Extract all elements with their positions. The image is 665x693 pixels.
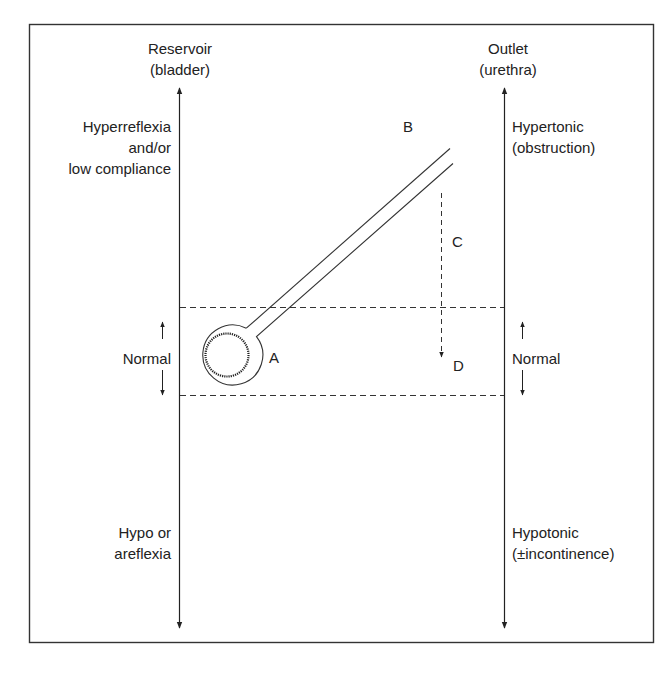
right-top-label: Hypertonic (obstruction): [512, 116, 595, 158]
left-top-label-line3: low compliance: [20, 158, 171, 179]
left-top-label-line1: Hyperreflexia: [20, 116, 171, 137]
right-bottom-label: Hypotonic (±incontinence): [512, 522, 614, 564]
left-bottom-label-line1: Hypo or: [60, 522, 171, 543]
right-axis-title: Outlet (urethra): [458, 38, 558, 80]
right-normal-label: Normal: [512, 348, 560, 369]
left-bottom-label-line2: areflexia: [60, 543, 171, 564]
left-axis-title-line1: Reservoir: [130, 38, 230, 59]
inner-ring: [206, 334, 249, 377]
point-label-b: B: [403, 116, 413, 137]
point-label-a: A: [269, 347, 279, 368]
left-bottom-label: Hypo or areflexia: [60, 522, 171, 564]
right-top-label-line1: Hypertonic: [512, 116, 595, 137]
point-label-c: C: [452, 231, 463, 252]
left-normal-label: Normal: [60, 348, 171, 369]
left-axis-title: Reservoir (bladder): [130, 38, 230, 80]
right-axis-title-line1: Outlet: [458, 38, 558, 59]
right-top-label-line2: (obstruction): [512, 137, 595, 158]
left-top-label-line2: and/or: [20, 137, 171, 158]
right-axis-title-line2: (urethra): [458, 59, 558, 80]
left-axis-title-line2: (bladder): [130, 59, 230, 80]
point-label-d: D: [453, 355, 464, 376]
right-bottom-label-line1: Hypotonic: [512, 522, 614, 543]
right-bottom-label-line2: (±incontinence): [512, 543, 614, 564]
diagram-canvas: [0, 0, 665, 693]
lollipop-shape-a: [203, 149, 453, 385]
left-top-label: Hyperreflexia and/or low compliance: [20, 116, 171, 179]
